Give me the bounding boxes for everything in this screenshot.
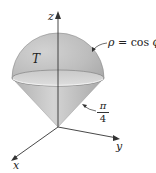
x-axis — [11, 127, 58, 161]
y-axis-label: y — [116, 141, 122, 152]
y-axis — [58, 127, 120, 141]
fraction-denominator: 4 — [96, 113, 110, 124]
z-axis-arrowhead-icon — [55, 11, 61, 19]
phi-symbol: ϕ — [153, 36, 156, 49]
diagram-canvas — [0, 0, 156, 173]
equals-sign: = — [114, 36, 130, 49]
x-axis-label: x — [13, 160, 19, 171]
sphere-equation-label: ρ = cos ϕ — [108, 37, 156, 48]
z-axis-label: z — [48, 11, 54, 22]
cone-angle-fraction: π 4 — [96, 101, 110, 124]
region-t-label: T — [32, 53, 40, 65]
fraction-numerator: π — [96, 101, 110, 112]
spherical-solid-diagram: z y x T ρ = cos ϕ π 4 — [0, 0, 156, 173]
cos-function: cos — [131, 36, 153, 49]
